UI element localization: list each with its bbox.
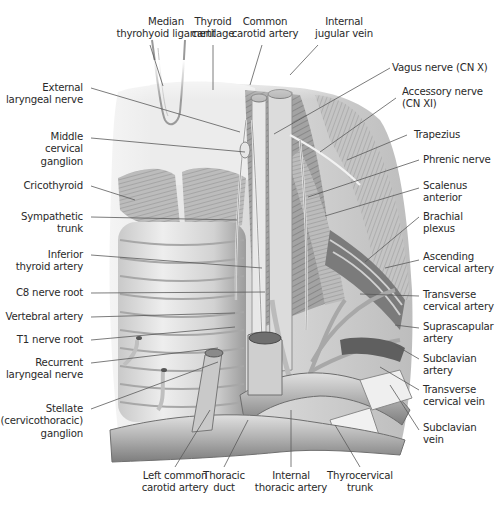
label-vagus-nerve: Vagus nerve (CN X) (392, 62, 488, 74)
label-cricothyroid: Cricothyroid (23, 180, 83, 192)
label-external-laryngeal-nerve: External laryngeal nerve (6, 82, 83, 107)
middle-cervical-ganglion-shape (240, 142, 250, 158)
label-c8-nerve-root: C8 nerve root (16, 287, 83, 299)
label-subclavian-artery: Subclavian artery (423, 353, 477, 378)
label-vertebral-artery: Vertebral artery (5, 311, 83, 323)
label-accessory-nerve: Accessory nerve (CN XI) (402, 86, 483, 111)
label-common-carotid-artery: Common carotid artery (222, 16, 308, 41)
label-t1-nerve-root: T1 nerve root (17, 334, 83, 346)
label-sympathetic-trunk: Sympathetic trunk (21, 211, 83, 236)
label-stellate-ganglion: Stellate (cervicothoracic) ganglion (1, 403, 83, 440)
label-thoracic-duct: Thoracic duct (195, 470, 253, 495)
label-middle-cervical-ganglion: Middle cervical ganglion (41, 131, 83, 168)
label-recurrent-laryngeal-nerve: Recurrent laryngeal nerve (6, 357, 83, 382)
anatomy-figure: Median thyrohyoid ligament Thyroid carti… (0, 0, 500, 505)
label-suprascapular-artery: Suprascapular artery (423, 321, 494, 346)
label-phrenic-nerve: Phrenic nerve (423, 154, 491, 166)
label-brachial-plexus: Brachial plexus (423, 211, 463, 236)
label-internal-jugular-vein: Internal jugular vein (306, 16, 382, 41)
label-trapezius: Trapezius (414, 129, 460, 141)
label-ascending-cervical-artery: Ascending cervical artery (423, 251, 494, 276)
label-scalenus-anterior: Scalenus anterior (423, 180, 467, 205)
label-transverse-cervical-vein: Transverse cervical vein (423, 384, 485, 409)
label-inferior-thyroid-artery: Inferior thyroid artery (16, 249, 83, 274)
label-transverse-cervical-artery: Transverse cervical artery (423, 289, 494, 314)
label-thyrocervical-trunk: Thyrocervical trunk (318, 470, 402, 495)
internal-jugular-vein-shape (268, 92, 292, 372)
label-subclavian-vein: Subclavian vein (423, 422, 477, 447)
